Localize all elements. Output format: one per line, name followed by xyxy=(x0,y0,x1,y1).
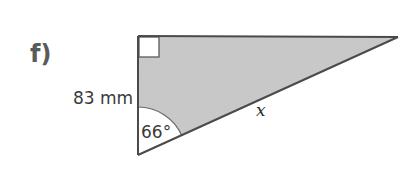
right-angle-marker xyxy=(139,37,159,57)
angle-label: 66° xyxy=(141,122,171,142)
part-label: f) xyxy=(30,40,51,68)
triangle-diagram: f) 83 mm 66° x xyxy=(0,0,414,182)
side-label-vertical: 83 mm xyxy=(73,88,133,108)
triangle-edge-top xyxy=(138,36,398,37)
side-label-hypotenuse: x xyxy=(256,100,266,120)
